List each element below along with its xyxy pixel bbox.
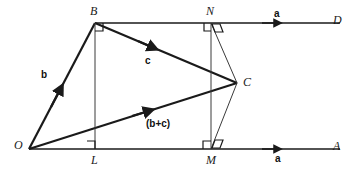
vector-label-c: c	[145, 56, 151, 66]
point-label-l: L	[91, 154, 98, 166]
point-label-d: D	[333, 14, 342, 26]
point-label-b: B	[90, 5, 97, 17]
geometry-figure: O B C D A L M N a a b c (b+c)	[0, 0, 354, 179]
vector-label-a-top: a	[274, 9, 280, 19]
right-angle-mark-n-vertical	[204, 23, 211, 31]
arrowhead-c	[138, 41, 156, 49]
point-label-c: C	[243, 76, 251, 88]
point-label-a: A	[333, 140, 340, 152]
vector-label-a-bottom: a	[275, 154, 281, 164]
right-angle-mark-m-vertical	[203, 141, 211, 149]
segment-mc	[211, 83, 237, 149]
arrowhead-b	[51, 86, 62, 107]
point-label-m: M	[206, 154, 216, 166]
point-label-n: N	[206, 5, 214, 17]
right-angle-mark-l	[87, 141, 95, 149]
vector-label-b-plus-c: (b+c)	[146, 119, 170, 129]
point-label-o: O	[14, 139, 23, 151]
diagram-canvas	[0, 0, 354, 179]
right-angle-mark-n-slant	[212, 24, 223, 32]
vector-b-plus-c-oc	[29, 83, 237, 149]
arrowhead-b-plus-c	[132, 110, 152, 116]
vector-label-b: b	[41, 70, 47, 80]
